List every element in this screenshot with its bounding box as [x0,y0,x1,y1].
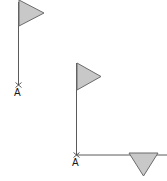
figure-right: A [72,63,167,176]
right-vertex-label: A [72,157,79,168]
left-flag-triangle-icon [19,0,44,26]
diagram-canvas: A A [0,0,167,181]
figure-left: A [14,0,44,98]
figure-svg: A A [0,0,167,181]
down-arrow-triangle-icon [129,153,158,176]
right-flag-triangle-icon [77,63,101,90]
left-vertex-label: A [14,87,21,98]
